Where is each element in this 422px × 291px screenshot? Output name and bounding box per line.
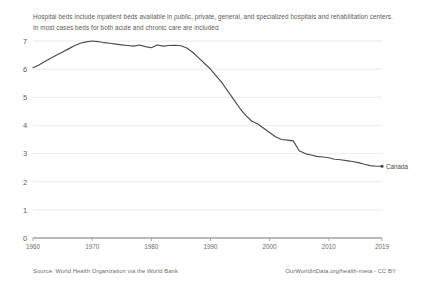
svg-text:1970: 1970 (85, 243, 100, 250)
svg-text:2010: 2010 (322, 243, 337, 250)
footer-source: Source: World Health Organization via th… (33, 268, 178, 274)
series-label-canada: Canada (386, 163, 409, 170)
chart-plot-area: 01234567 1960197019801990200020102019 Ca… (0, 0, 422, 291)
chart-page: Hospital beds include inpatient beds ava… (0, 0, 422, 291)
svg-text:1: 1 (23, 206, 27, 215)
footer-credit: OurWorldInData.org/health-meta - CC BY (285, 268, 396, 274)
svg-text:5: 5 (23, 93, 27, 102)
line-chart-svg: 01234567 1960197019801990200020102019 Ca… (0, 0, 422, 291)
y-axis-tick-labels: 01234567 (23, 37, 27, 243)
svg-text:4: 4 (23, 121, 27, 130)
svg-text:2: 2 (23, 178, 27, 187)
svg-text:2000: 2000 (263, 243, 278, 250)
svg-text:0: 0 (23, 234, 27, 243)
svg-text:1990: 1990 (203, 243, 218, 250)
series-end-marker (380, 165, 383, 168)
svg-text:3: 3 (23, 149, 27, 158)
gridlines (33, 41, 382, 238)
svg-text:6: 6 (23, 65, 27, 74)
svg-text:7: 7 (23, 37, 27, 46)
x-axis-tick-labels: 1960197019801990200020102019 (26, 243, 390, 250)
svg-text:1980: 1980 (144, 243, 159, 250)
data-series-canada (33, 41, 382, 166)
svg-text:2019: 2019 (375, 243, 390, 250)
svg-text:1960: 1960 (26, 243, 41, 250)
